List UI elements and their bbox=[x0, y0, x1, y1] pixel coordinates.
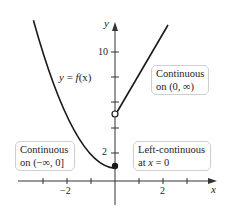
x-axis-label: x bbox=[211, 183, 216, 195]
annotation-origin-pre: at bbox=[138, 157, 148, 168]
y-axis-label: y bbox=[104, 17, 109, 29]
open-endpoint bbox=[112, 111, 118, 117]
curve-label-paren: (x) bbox=[79, 71, 92, 83]
annotation-left-continuous-at-zero: Left-continuous at x = 0 bbox=[133, 141, 211, 171]
tick-label-y-10: 10 bbox=[98, 46, 108, 57]
y-axis-arrow-icon bbox=[112, 22, 118, 31]
tick-label-x-neg2: −2 bbox=[60, 185, 71, 196]
chart-canvas bbox=[0, 0, 230, 211]
annotation-left-line2: on (−∞, 0] bbox=[20, 157, 70, 170]
tick-label-y-2: 2 bbox=[102, 146, 107, 157]
annotation-right-line1: Continuous bbox=[156, 68, 204, 81]
annotation-right-continuous: Continuous on (0, ∞) bbox=[151, 65, 209, 95]
annotation-left-continuous: Continuous on (−∞, 0] bbox=[15, 141, 75, 171]
annotation-origin-line1: Left-continuous bbox=[138, 144, 206, 157]
tick-label-x-2: 2 bbox=[160, 185, 165, 196]
curve-label-eq: = bbox=[64, 71, 76, 83]
annotation-origin-post: = 0 bbox=[153, 157, 169, 168]
annotation-origin-line2: at x = 0 bbox=[138, 157, 206, 170]
filled-endpoint bbox=[112, 163, 118, 169]
annotation-right-line2: on (0, ∞) bbox=[156, 81, 204, 94]
annotation-left-line1: Continuous bbox=[20, 144, 70, 157]
curve-label: y = f(x) bbox=[59, 71, 92, 83]
